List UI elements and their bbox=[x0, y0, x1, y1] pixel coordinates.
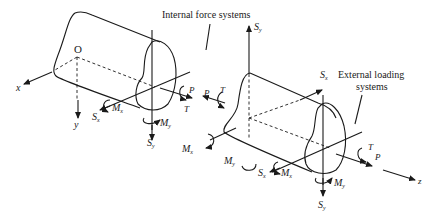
external-loading-label-line1: External loading bbox=[338, 69, 404, 80]
left-t-label: T bbox=[184, 104, 190, 114]
right-section-horizontal-axis bbox=[272, 132, 362, 172]
right-t-right-label: T bbox=[368, 142, 374, 152]
left-p-label: P bbox=[188, 85, 195, 95]
right-beam-outline bbox=[224, 73, 312, 172]
right-sy-bottom-label: Sy bbox=[318, 199, 326, 211]
origin-label: O bbox=[74, 43, 82, 55]
internal-leader-line bbox=[206, 24, 210, 50]
left-t-moment-icon bbox=[180, 86, 186, 100]
left-beam-outline bbox=[54, 13, 140, 108]
y-axis-label: y bbox=[73, 119, 79, 130]
internal-force-systems-label: Internal force systems bbox=[162, 9, 250, 20]
right-my-right-moment-icon bbox=[315, 178, 332, 183]
left-mx-label: Mx bbox=[111, 102, 123, 114]
left-dashed-x-axis bbox=[55, 57, 77, 70]
left-x-axis-arrow bbox=[24, 72, 52, 84]
left-p-arrow bbox=[160, 88, 192, 98]
right-p-right-label: P bbox=[374, 152, 381, 162]
right-dashed-x-axis bbox=[249, 100, 300, 118]
external-leader-line bbox=[355, 95, 362, 124]
right-sx-top-arrow bbox=[300, 90, 322, 100]
right-cross-section bbox=[305, 103, 346, 173]
left-beam-top-edge bbox=[75, 12, 160, 42]
right-my-left-moment-icon bbox=[242, 164, 256, 170]
right-mx-bottom-label: Mx bbox=[280, 167, 292, 179]
z-axis-label: z bbox=[417, 176, 422, 186]
right-my-right-label: My bbox=[333, 177, 345, 189]
beam-force-diagram: O x y Sx Mx Sy My P T bbox=[0, 0, 433, 221]
z-axis-arrow bbox=[383, 170, 415, 180]
right-beam-segment bbox=[203, 26, 415, 196]
right-sx-bottom-label: Sx bbox=[258, 167, 266, 179]
right-t-left-label: T bbox=[220, 85, 226, 95]
right-mx-left-label: Mx bbox=[181, 143, 193, 155]
right-p-left-label: P bbox=[203, 88, 210, 98]
right-mx-left-moment-icon bbox=[206, 134, 214, 148]
left-sx-label: Sx bbox=[92, 111, 100, 123]
right-my-left-label: My bbox=[223, 155, 235, 167]
right-sx-top-label: Sx bbox=[320, 69, 328, 81]
right-p-right-arrow bbox=[336, 154, 372, 166]
x-axis-label: x bbox=[15, 82, 21, 93]
left-my-label: My bbox=[159, 117, 171, 129]
external-loading-label-line2: systems bbox=[356, 81, 388, 92]
right-t-right-moment-icon bbox=[358, 148, 366, 162]
left-sy-label: Sy bbox=[147, 137, 155, 149]
right-dashed-z-axis bbox=[249, 118, 330, 148]
right-sy-top-label: Sy bbox=[254, 21, 262, 33]
left-cross-section bbox=[136, 41, 176, 110]
